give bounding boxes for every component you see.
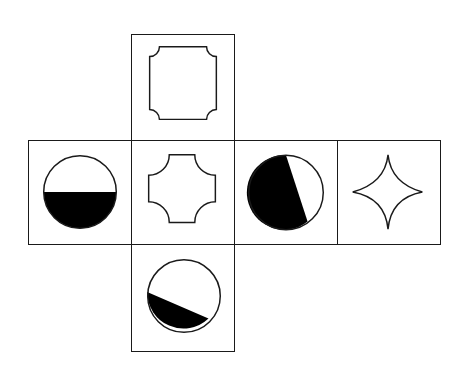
face-center: Cross shape with concave arcs: [131, 140, 235, 245]
half-filled-circle-icon: [29, 141, 131, 244]
face-top: Square with concave corners: [131, 34, 235, 141]
face-left: Circle, bottom half filled: [28, 140, 132, 245]
concave-cross-icon: [132, 141, 234, 244]
face-right-2: Four-pointed concave star: [337, 140, 441, 245]
slant-filled-circle-icon: [132, 245, 234, 351]
diagonal-filled-circle-icon: [235, 141, 337, 244]
four-point-star-icon: [338, 141, 440, 244]
face-right-1: Circle, left portion filled along a diag…: [234, 140, 338, 245]
face-bottom: Circle, bottom segment filled along a sl…: [131, 244, 235, 352]
square-concave-corners-icon: [132, 35, 234, 140]
